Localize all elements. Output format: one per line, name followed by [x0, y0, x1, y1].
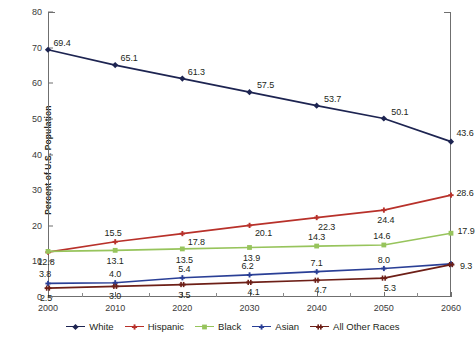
diamond-marker: [314, 103, 320, 109]
square-marker: [202, 324, 207, 329]
double-cross-marker: [380, 276, 387, 281]
data-label: 14.3: [308, 232, 325, 242]
y-tick-label: 40: [32, 150, 42, 160]
x-tick-label: 2060: [441, 303, 461, 313]
double-cross-marker: [179, 282, 186, 287]
cross-marker: [247, 223, 252, 228]
plus-marker: [381, 266, 386, 271]
cross-marker: [314, 215, 319, 220]
diamond-marker: [73, 323, 79, 329]
plus-marker: [259, 324, 264, 329]
plus-marker: [314, 269, 319, 274]
data-label: 17.8: [188, 237, 205, 247]
square-marker: [314, 244, 319, 249]
data-label: 4.1: [247, 287, 259, 297]
diamond-marker: [246, 89, 252, 95]
data-label: 20.1: [255, 228, 272, 238]
data-label: 69.4: [53, 38, 70, 48]
data-label: 8.0: [378, 255, 390, 265]
data-label: 3.5: [178, 290, 190, 300]
y-tick-label: 60: [32, 78, 42, 88]
chart-legend: WhiteHispanicBlackAsianAll Other Races: [0, 321, 466, 332]
legend-label: Asian: [275, 321, 299, 332]
data-label: 4.7: [315, 285, 327, 295]
legend-label: White: [89, 321, 113, 332]
legend-item-all-other-races[interactable]: All Other Races: [310, 321, 400, 332]
y-tick-label: 50: [32, 114, 42, 124]
data-label: 5.3: [384, 283, 396, 293]
y-tick-label: 30: [32, 185, 42, 195]
double-cross-marker: [316, 324, 323, 329]
legend-label: Black: [218, 321, 241, 332]
plus-marker: [45, 281, 50, 286]
data-label: 24.4: [377, 215, 394, 225]
data-label: 50.1: [391, 107, 408, 117]
y-tick-label: 80: [32, 7, 42, 17]
plus-marker: [247, 272, 252, 277]
cross-marker: [132, 324, 137, 329]
data-label: 15.5: [105, 228, 122, 238]
data-label: 12.8: [37, 257, 54, 267]
diamond-marker: [45, 47, 51, 53]
diamond-marker: [381, 115, 387, 121]
legend-item-black[interactable]: Black: [195, 321, 241, 332]
double-cross-marker: [246, 280, 253, 285]
legend-swatch-diamond-icon: [66, 322, 85, 332]
cross-marker: [113, 239, 118, 244]
legend-item-white[interactable]: White: [66, 321, 113, 332]
cross-marker: [180, 231, 185, 236]
data-label: 14.6: [373, 231, 390, 241]
series-line-white: [48, 50, 451, 142]
data-label: 3.0: [109, 291, 121, 301]
data-label: 61.3: [188, 67, 205, 77]
y-tick-label: 20: [32, 221, 42, 231]
data-label: 2.5: [40, 293, 52, 303]
data-label: 3.8: [39, 269, 51, 279]
x-tick-mark: [451, 292, 452, 297]
square-marker: [46, 249, 51, 254]
x-tick-label: 2020: [172, 303, 192, 313]
data-label: 7.1: [311, 258, 323, 268]
data-label: 4.0: [109, 269, 121, 279]
data-label: 53.7: [324, 94, 341, 104]
legend-swatch-square-icon: [195, 322, 214, 332]
data-label: 13.1: [107, 256, 124, 266]
y-tick-label: 70: [32, 43, 42, 53]
double-cross-marker: [45, 285, 52, 290]
double-cross-marker: [313, 278, 320, 283]
data-label: 65.1: [121, 53, 138, 63]
legend-label: Hispanic: [148, 321, 184, 332]
diamond-marker: [112, 62, 118, 68]
x-tick-label: 2010: [105, 303, 125, 313]
plot-area: 01020304050607080 2000201020202030204020…: [48, 12, 451, 297]
diamond-marker: [179, 76, 185, 82]
data-label: 5.4: [178, 264, 190, 274]
cross-marker: [381, 207, 386, 212]
diamond-marker: [448, 139, 454, 145]
legend-swatch-plus-icon: [252, 322, 271, 332]
data-label: 9.3: [460, 261, 472, 271]
square-marker: [180, 247, 185, 252]
legend-item-asian[interactable]: Asian: [252, 321, 299, 332]
square-marker: [381, 243, 386, 248]
data-label: 43.6: [456, 128, 473, 138]
data-label: 22.3: [318, 222, 335, 232]
data-label: 57.5: [257, 80, 274, 90]
square-marker: [113, 248, 118, 253]
data-label: 17.9: [457, 226, 474, 236]
square-marker: [449, 231, 454, 236]
legend-item-hispanic[interactable]: Hispanic: [125, 321, 184, 332]
cross-marker: [448, 193, 453, 198]
legend-swatch-cross-icon: [125, 322, 144, 332]
x-tick-label: 2030: [239, 303, 259, 313]
data-label: 6.2: [241, 261, 253, 271]
x-tick-label: 2050: [374, 303, 394, 313]
data-label: 28.6: [456, 188, 473, 198]
legend-label: All Other Races: [333, 321, 400, 332]
square-marker: [247, 245, 252, 250]
plus-marker: [180, 275, 185, 280]
x-tick-label: 2040: [307, 303, 327, 313]
legend-swatch-double-cross-icon: [310, 322, 329, 332]
x-tick-label: 2000: [38, 303, 58, 313]
